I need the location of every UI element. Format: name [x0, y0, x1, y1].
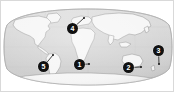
marker-4[interactable]: 4 — [67, 23, 78, 34]
leader-endpoint-5 — [52, 54, 54, 56]
world-map-graphic — [1, 1, 174, 92]
marker-1[interactable]: 1 — [74, 59, 85, 70]
leader-endpoint-4 — [83, 17, 85, 19]
leader-endpoint-2 — [140, 66, 142, 68]
world-map-figure: 12345 — [0, 0, 174, 92]
globe-shading — [4, 9, 172, 85]
leader-endpoint-3 — [158, 63, 160, 65]
marker-3[interactable]: 3 — [153, 45, 164, 56]
leader-endpoint-1 — [88, 63, 90, 65]
marker-2[interactable]: 2 — [123, 62, 134, 73]
marker-5[interactable]: 5 — [38, 61, 49, 72]
